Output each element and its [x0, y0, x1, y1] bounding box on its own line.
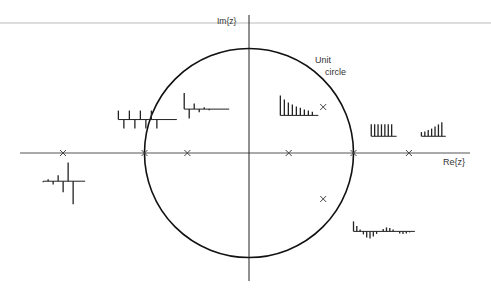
impulse-response-resp-pole-1: [371, 124, 396, 136]
unit-circle-label-line2: circle: [325, 67, 346, 77]
impulse-responses: [43, 93, 446, 238]
pole-marker-p-complex-upper: [320, 104, 326, 110]
pole-marker-p-complex-lower: [320, 196, 326, 202]
impulse-response-resp-pole-neg-1-78: [43, 163, 85, 205]
impulse-response-resp-pole-1-53: [421, 122, 445, 136]
real-axis-label: Re{z}: [443, 157, 465, 167]
imaginary-axis-label: Im{z}: [217, 16, 237, 26]
impulse-response-resp-complex: [354, 221, 415, 238]
impulse-response-resp-pole-0-38: [280, 95, 318, 115]
z-plane-diagram: Im{z} Re{z} Unit circle: [0, 0, 491, 294]
unit-circle-label-line1: Unit: [315, 55, 332, 65]
impulse-response-resp-pole-neg-0-59: [184, 93, 229, 118]
